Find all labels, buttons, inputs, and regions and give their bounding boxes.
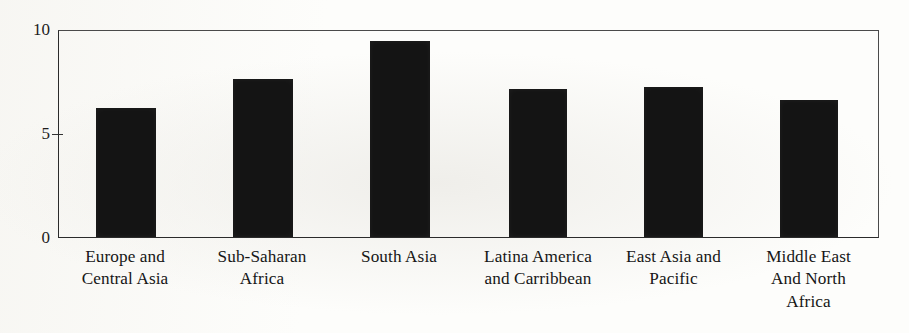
y-tick-label-5: 5 — [0, 125, 50, 142]
x-label-line: Pacific — [606, 268, 741, 290]
bar-east-asia-and-pacific — [644, 87, 703, 237]
x-tick-label-south-asia: South Asia — [329, 246, 469, 268]
x-tick-label-east-asia-and-pacific: East Asia and Pacific — [606, 246, 741, 291]
bar-middle-east-and-north-africa — [780, 100, 838, 237]
x-label-line: South Asia — [329, 246, 469, 268]
x-tick-label-middle-east-and-north-africa: Middle East And North Africa — [741, 246, 876, 313]
plot-area — [58, 30, 879, 238]
x-label-line: Central Asia — [55, 268, 195, 290]
x-label-line: Europe and — [55, 246, 195, 268]
bar-sub-saharan-africa — [233, 79, 293, 237]
x-label-line: Africa — [741, 291, 876, 313]
x-label-line: East Asia and — [606, 246, 741, 268]
y-axis: 10 5 0 — [0, 0, 50, 333]
y-tick-label-10: 10 — [0, 21, 50, 38]
x-tick-label-latina-america-and-carribbean: Latina America and Carribbean — [463, 246, 613, 291]
bar-europe-and-central-asia — [96, 108, 156, 237]
x-label-line: Middle East — [741, 246, 876, 268]
bar-south-asia — [370, 41, 430, 237]
x-label-line: Latina America — [463, 246, 613, 268]
x-label-line: Sub-Saharan — [192, 246, 332, 268]
x-label-line: Africa — [192, 268, 332, 290]
x-label-line: And North — [741, 268, 876, 290]
x-tick-label-europe-and-central-asia: Europe and Central Asia — [55, 246, 195, 291]
x-tick-label-sub-saharan-africa: Sub-Saharan Africa — [192, 246, 332, 291]
y-tick-label-0: 0 — [0, 229, 50, 246]
x-axis: Europe and Central Asia Sub-Saharan Afri… — [58, 246, 879, 333]
bar-chart: 10 5 0 Europe and Central Asia Sub-Sahar… — [0, 0, 909, 333]
bar-latina-america-and-carribbean — [509, 89, 567, 237]
x-label-line: and Carribbean — [463, 268, 613, 290]
